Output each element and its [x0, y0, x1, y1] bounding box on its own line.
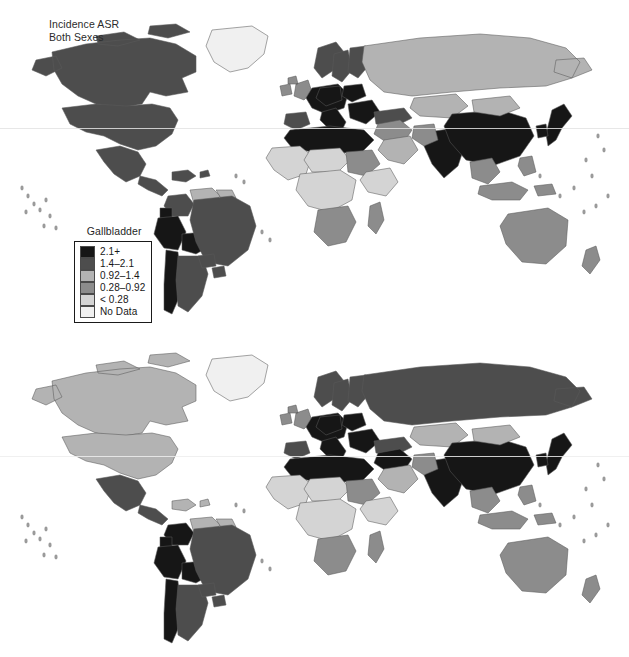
legend-swatch	[80, 246, 95, 258]
map-island-speck	[38, 208, 41, 213]
legend-swatch	[80, 258, 95, 270]
map-island-speck	[538, 503, 541, 508]
map-island-speck	[572, 186, 575, 191]
map-region	[478, 511, 556, 529]
map-region	[304, 148, 350, 172]
map-island-speck	[48, 543, 51, 548]
legend-row: 2.1+	[80, 246, 145, 258]
legend-label: 0.92–1.4	[100, 271, 140, 281]
map-region	[378, 136, 418, 164]
map-region	[154, 545, 186, 579]
map-region	[362, 34, 592, 96]
map-island-speck	[538, 174, 541, 179]
map-region	[304, 477, 350, 501]
legend-swatch	[80, 306, 95, 318]
map-region	[368, 202, 384, 234]
map-island-speck	[268, 567, 271, 572]
map-region	[280, 413, 292, 425]
map-panel-mortality: Mortality ASR Both Sexes Gallbladder 1.8…	[0, 329, 629, 657]
map-region	[296, 499, 356, 541]
map-region	[206, 26, 268, 72]
map-region	[360, 168, 398, 196]
legend-row: No Data	[80, 306, 145, 318]
map-island-speck	[606, 194, 609, 199]
map-island-speck	[594, 533, 597, 538]
map-island-speck	[584, 487, 587, 492]
map-island-speck	[260, 559, 263, 564]
legend-row: 1.4–2.1	[80, 258, 145, 270]
map-panel-incidence: Incidence ASR Both Sexes Gallbladder 2.1…	[0, 0, 629, 328]
map-island-speck	[44, 527, 47, 532]
legend-row: 0.92–1.4	[80, 270, 145, 282]
map-region	[500, 208, 568, 264]
map-island-speck	[260, 230, 263, 235]
map-region	[206, 355, 268, 401]
panel-title-incidence: Incidence ASR Both Sexes	[49, 18, 119, 44]
legend-label: 1.4–2.1	[100, 259, 134, 269]
map-region	[472, 425, 520, 445]
map-region	[582, 575, 600, 603]
map-island-speck	[596, 134, 599, 139]
map-island-speck	[38, 537, 41, 542]
world-map-mortality-svg	[0, 329, 629, 657]
map-region	[314, 535, 356, 575]
map-region	[96, 475, 146, 511]
map-region	[212, 266, 226, 278]
map-region	[96, 146, 146, 182]
map-region	[546, 433, 572, 475]
legend-label: < 0.28	[100, 295, 129, 305]
map-island-speck	[602, 148, 605, 153]
map-island-speck	[26, 194, 29, 199]
map-region	[536, 453, 548, 467]
map-island-speck	[606, 523, 609, 528]
map-island-speck	[590, 503, 593, 508]
map-region	[284, 112, 310, 130]
map-region	[368, 531, 384, 563]
map-region	[62, 104, 178, 150]
legend-swatch	[80, 282, 95, 294]
map-island-speck	[268, 238, 271, 243]
legend-row: < 0.28	[80, 294, 145, 306]
map-island-speck	[558, 194, 561, 199]
legend-box-incidence: 2.1+ 1.4–2.1 0.92–1.4 0.28–0.92 < 0.28	[74, 241, 152, 323]
map-island-speck	[594, 204, 597, 209]
map-island-speck	[234, 174, 237, 179]
legend-row: 0.28–0.92	[80, 282, 145, 294]
map-region	[138, 176, 168, 196]
map-region	[536, 124, 548, 138]
legend-swatch	[80, 270, 95, 282]
figure-two-world-maps: Incidence ASR Both Sexes Gallbladder 2.1…	[0, 0, 629, 657]
map-region	[362, 363, 592, 425]
map-island-speck	[42, 553, 45, 558]
map-region	[280, 84, 292, 96]
map-region	[518, 485, 536, 505]
legend-label: No Data	[100, 307, 137, 317]
map-island-speck	[584, 158, 587, 163]
map-region	[360, 497, 398, 525]
legend-swatch	[80, 294, 95, 306]
map-island-speck	[596, 463, 599, 468]
map-region	[518, 156, 536, 176]
legend-label: 2.1+	[100, 247, 120, 257]
map-region	[546, 104, 572, 146]
legend-incidence: Gallbladder 2.1+ 1.4–2.1 0.92–1.4 0.28–0…	[74, 225, 152, 323]
map-region	[212, 595, 226, 607]
map-region	[472, 96, 520, 116]
map-region	[154, 216, 186, 250]
map-region	[500, 537, 568, 593]
legend-label: 0.28–0.92	[100, 283, 145, 293]
map-island-speck	[558, 523, 561, 528]
world-map-mortality	[0, 329, 629, 657]
map-region	[172, 170, 210, 182]
map-island-speck	[26, 523, 29, 528]
map-region	[172, 499, 210, 511]
map-island-speck	[54, 226, 57, 231]
map-region	[314, 206, 356, 246]
map-region	[478, 182, 556, 200]
map-island-speck	[582, 539, 585, 544]
map-island-speck	[54, 555, 57, 560]
legend-title-incidence: Gallbladder	[76, 225, 152, 237]
map-island-speck	[42, 224, 45, 229]
map-island-speck	[590, 174, 593, 179]
map-island-speck	[20, 515, 23, 520]
